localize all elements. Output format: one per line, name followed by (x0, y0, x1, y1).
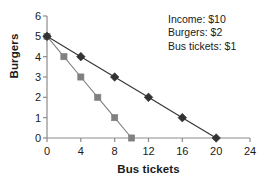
x-tick-label: 4 (71, 145, 91, 157)
marker-diamond (144, 93, 153, 102)
chart-annotations: Income: $10Burgers: $2Bus tickets: $1 (168, 13, 236, 53)
y-tick-label: 1 (25, 112, 41, 124)
marker-diamond (77, 52, 86, 61)
marker-square (95, 94, 101, 100)
x-tick-label: 24 (240, 145, 260, 157)
marker-square (112, 115, 118, 121)
annotation-line-1: Burgers: $2 (168, 26, 236, 39)
y-tick-label: 2 (25, 91, 41, 103)
y-axis-label: Burgers (8, 16, 20, 96)
x-tick-label: 0 (37, 145, 57, 157)
x-axis-label: Bus tickets (47, 163, 250, 175)
y-tick-label: 5 (25, 30, 41, 42)
marker-diamond (178, 113, 187, 122)
y-tick-label: 6 (25, 10, 41, 22)
series-line-budget-line-gray (47, 36, 132, 138)
marker-square (128, 135, 134, 141)
annotation-line-2: Bus tickets: $1 (168, 40, 236, 53)
x-tick-label: 16 (172, 145, 192, 157)
marker-diamond (212, 134, 221, 143)
marker-diamond (110, 73, 119, 82)
x-tick-label: 12 (139, 145, 159, 157)
annotation-line-0: Income: $10 (168, 13, 236, 26)
y-tick-label: 3 (25, 71, 41, 83)
marker-square (78, 74, 84, 80)
x-tick-label: 20 (206, 145, 226, 157)
y-tick-label: 4 (25, 51, 41, 63)
x-tick-label: 8 (105, 145, 125, 157)
y-tick-label: 0 (25, 132, 41, 144)
marker-square (61, 54, 67, 60)
chart-container: Burgers Bus tickets 0123456 04812162024 … (0, 0, 277, 184)
